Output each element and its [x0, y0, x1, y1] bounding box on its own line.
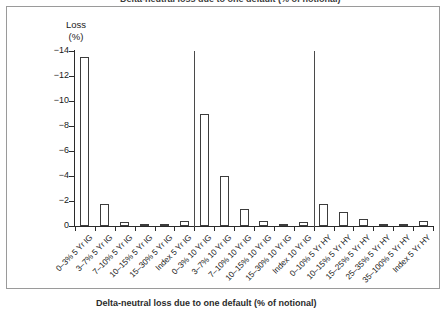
group-divider-line [314, 51, 315, 227]
x-axis-tick-mark [254, 227, 255, 231]
x-axis-category-label: 0–10% 5 Yr HY [288, 233, 333, 278]
x-axis-tick-mark [334, 227, 335, 231]
x-axis-tick-mark [214, 227, 215, 231]
x-axis-category-label: 15–25% 5 Yr HY [324, 233, 372, 281]
x-axis-tick-mark [373, 227, 374, 231]
bar [160, 224, 169, 226]
bar [80, 57, 89, 226]
x-axis-tick-mark [234, 227, 235, 231]
figure-caption-strip: Delta-neutral loss due to one default (%… [0, 294, 447, 312]
bar [200, 114, 209, 227]
bar [120, 222, 129, 226]
x-axis-tick-mark [155, 227, 156, 231]
plot-area [75, 51, 433, 226]
x-axis-category-label: 0–3% 10 Yr IG [170, 233, 213, 276]
x-axis-tick-mark [95, 227, 96, 231]
x-axis-category-label: 25–35% 5 Yr HY [344, 233, 392, 281]
bar [240, 209, 249, 226]
x-axis-category-label: 35–100% 5 Yr HY [361, 233, 413, 285]
bar [279, 224, 288, 226]
x-axis-category-label: 10–15% 5 Yr IG [108, 233, 154, 279]
top-title-text: Delta-neutral loss due to one default (%… [120, 0, 341, 4]
x-axis-tick-mark [194, 227, 195, 231]
y-axis-tick-label: −14 [43, 46, 69, 55]
y-axis-tick-label: −2 [43, 196, 69, 205]
y-axis-tick-label: −10 [43, 96, 69, 105]
x-axis-tick-mark [314, 227, 315, 231]
group-divider-line [194, 51, 195, 227]
y-axis-tick-labels: −14−12−10−8−6−4−20 [37, 7, 69, 290]
x-axis-category-label: Index 5 Yr HY [391, 233, 432, 274]
x-axis-category-label: 10–15% 10 Yr IG [224, 233, 274, 283]
x-axis-tick-mark [115, 227, 116, 231]
bar [220, 176, 229, 226]
bar [399, 224, 408, 226]
x-axis-tick-mark [135, 227, 136, 231]
x-axis-category-label: 7–10% 10 Yr IG [207, 233, 253, 279]
bar [100, 204, 109, 226]
x-axis-tick-mark [393, 227, 394, 231]
figure-frame: Loss (%) −14−12−10−8−6−4−20 0–3% 5 Yr IG… [6, 6, 440, 289]
x-axis-tick-mark [75, 227, 76, 231]
x-axis-tick-mark [174, 227, 175, 231]
x-axis-tick-mark [413, 227, 414, 231]
x-axis-category-label: 3–7% 10 Yr IG [190, 233, 233, 276]
figure-caption-text: Delta-neutral loss due to one default (%… [96, 298, 317, 308]
y-axis-tick-label: −8 [43, 121, 69, 130]
x-axis-category-label: Index 10 Yr IG [270, 233, 313, 276]
bar [140, 224, 149, 226]
bar [259, 221, 268, 226]
x-axis-tick-mark [274, 227, 275, 231]
y-axis-tick-label: 0 [43, 221, 69, 230]
bar [419, 221, 428, 226]
x-axis-category-label: 10–15% 5 Yr HY [304, 233, 352, 281]
x-axis-category-label: 7–10% 5 Yr IG [91, 233, 134, 276]
bar [299, 222, 308, 226]
x-axis-category-label: 15–30% 5 Yr IG [127, 233, 173, 279]
y-axis-tick-label: −4 [43, 171, 69, 180]
x-axis-tick-mark [353, 227, 354, 231]
bar [319, 204, 328, 226]
bar [339, 212, 348, 226]
bar [180, 221, 189, 226]
y-axis-tick-label: −6 [43, 146, 69, 155]
x-axis-tick-mark [433, 227, 434, 231]
y-axis-tick-label: −12 [43, 71, 69, 80]
x-axis-category-label: 3–7% 5 Yr IG [74, 233, 114, 273]
bar [379, 224, 388, 226]
x-axis-category-label: 15–30% 10 Yr IG [244, 233, 294, 283]
bar [359, 219, 368, 226]
x-axis-category-label: Index 5 Yr IG [154, 233, 193, 272]
x-axis-tick-mark [294, 227, 295, 231]
